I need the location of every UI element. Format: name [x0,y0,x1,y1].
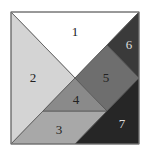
piece-label-7: 7 [119,116,126,131]
piece-label-4: 4 [73,92,80,107]
piece-label-3: 3 [56,122,63,137]
tangram-diagram: 1234567 [0,0,147,154]
piece-label-6: 6 [126,37,133,52]
piece-label-2: 2 [30,70,37,85]
piece-label-1: 1 [72,24,79,39]
piece-label-5: 5 [103,70,110,85]
